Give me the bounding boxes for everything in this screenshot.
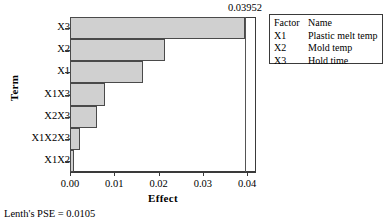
bar-row xyxy=(70,128,256,150)
bar-row xyxy=(70,106,256,128)
reference-line-label: 0.03952 xyxy=(228,2,262,13)
legend-row: X1Plastic melt temp xyxy=(274,30,382,43)
x-tick-mark xyxy=(159,172,160,176)
x-tick-label-0.00: 0.00 xyxy=(50,178,90,189)
x-tick-label-0.04: 0.04 xyxy=(227,178,267,189)
x-tick-mark xyxy=(247,172,248,176)
bars-layer xyxy=(70,17,256,172)
legend-header-name: Name xyxy=(308,17,382,30)
bar-row xyxy=(70,39,256,61)
bar-x3 xyxy=(70,17,245,39)
y-tick-label-x1: X1 xyxy=(6,66,70,76)
y-tick-label-x2: X2 xyxy=(6,44,70,54)
bar-x1x2x3 xyxy=(70,128,80,150)
bar-x1x3 xyxy=(70,83,105,105)
bar-x1 xyxy=(70,61,143,83)
x-tick-label-0.03: 0.03 xyxy=(183,178,223,189)
legend-factor-code: X3 xyxy=(274,55,308,68)
x-axis-title: Effect xyxy=(70,192,256,204)
legend-factor-name: Plastic melt temp xyxy=(308,30,382,43)
legend-table: FactorNameX1Plastic melt tempX2Mold temp… xyxy=(274,17,382,67)
y-tick-label-x3: X3 xyxy=(6,22,70,32)
legend-header-row: FactorName xyxy=(274,17,382,30)
x-axis-line xyxy=(70,172,256,173)
reference-line xyxy=(245,17,246,172)
lenths-pse-note: Lenth's PSE = 0.0105 xyxy=(4,208,95,219)
x-tick-label-0.02: 0.02 xyxy=(139,178,179,189)
factor-legend: FactorNameX1Plastic melt tempX2Mold temp… xyxy=(269,14,383,64)
x-tick-mark xyxy=(70,172,71,176)
legend-row: X2Mold temp xyxy=(274,42,382,55)
legend-row: X3Hold time xyxy=(274,55,382,68)
legend-factor-name: Mold temp xyxy=(308,42,382,55)
pareto-effects-chart: Term X3X2X1X1X3X2X3X1X2X3X1X2 0.000.010.… xyxy=(0,0,386,224)
legend-factor-name: Hold time xyxy=(308,55,382,68)
bar-row xyxy=(70,61,256,83)
legend-factor-code: X2 xyxy=(274,42,308,55)
bar-row xyxy=(70,150,256,172)
bar-row xyxy=(70,83,256,105)
legend-header-factor: Factor xyxy=(274,17,308,30)
y-tick-label-x1x2x3: X1X2X3 xyxy=(6,133,70,143)
bar-x1x2 xyxy=(70,150,74,172)
bar-x2x3 xyxy=(70,106,97,128)
y-axis-tick-labels: X3X2X1X1X3X2X3X1X2X3X1X2 xyxy=(0,17,70,172)
y-tick-label-x2x3: X2X3 xyxy=(6,111,70,121)
bar-row xyxy=(70,17,256,39)
bar-x2 xyxy=(70,39,165,61)
x-tick-mark xyxy=(203,172,204,176)
legend-factor-code: X1 xyxy=(274,30,308,43)
x-tick-label-0.01: 0.01 xyxy=(94,178,134,189)
x-tick-mark xyxy=(114,172,115,176)
y-tick-label-x1x2: X1X2 xyxy=(6,155,70,165)
y-tick-label-x1x3: X1X3 xyxy=(6,89,70,99)
